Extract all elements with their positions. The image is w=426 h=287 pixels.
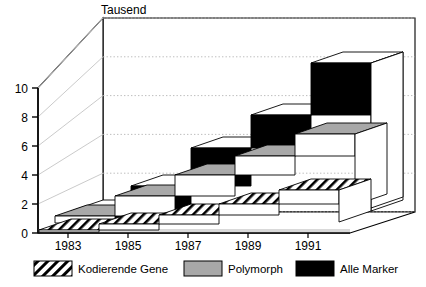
- y-tick-label-10: 10: [15, 82, 29, 96]
- y-axis: 0 2 4 6 8 10: [15, 82, 38, 241]
- legend-label-alle-marker: Alle Marker: [340, 263, 398, 275]
- chart-legend: Kodierende Gene Polymorph Alle Marker: [34, 261, 398, 276]
- y-tick-label-2: 2: [21, 198, 28, 212]
- x-tick-label-1989: 1989: [235, 239, 262, 253]
- legend-label-polymorph: Polymorph: [228, 263, 283, 275]
- x-axis: 1983 1985 1987 1989 1991: [38, 233, 350, 253]
- x-tick-label-1991: 1991: [295, 239, 322, 253]
- legend-swatch-gray: [184, 261, 222, 276]
- legend-label-kodierende-gene: Kodierende Gene: [78, 263, 168, 275]
- legend-item-polymorph[interactable]: Polymorph: [184, 261, 283, 276]
- x-tick-label-1985: 1985: [115, 239, 142, 253]
- chart-container: 0 2 4 6 8 10 Tausend: [0, 0, 426, 287]
- y-tick-label-8: 8: [21, 111, 28, 125]
- legend-swatch-black: [296, 261, 334, 276]
- x-tick-label-1987: 1987: [175, 239, 202, 253]
- x-tick-label-1983: 1983: [55, 239, 82, 253]
- three-d-step-chart: 0 2 4 6 8 10 Tausend: [0, 0, 426, 287]
- legend-item-kodierende-gene[interactable]: Kodierende Gene: [34, 261, 168, 276]
- legend-item-alle-marker[interactable]: Alle Marker: [296, 261, 398, 276]
- y-tick-label-4: 4: [21, 169, 28, 183]
- legend-swatch-hatch: [34, 261, 72, 276]
- y-tick-label-0: 0: [21, 227, 28, 241]
- axis-unit-label: Tausend: [101, 3, 146, 17]
- y-tick-label-6: 6: [21, 140, 28, 154]
- plot-left-wall: [38, 18, 103, 233]
